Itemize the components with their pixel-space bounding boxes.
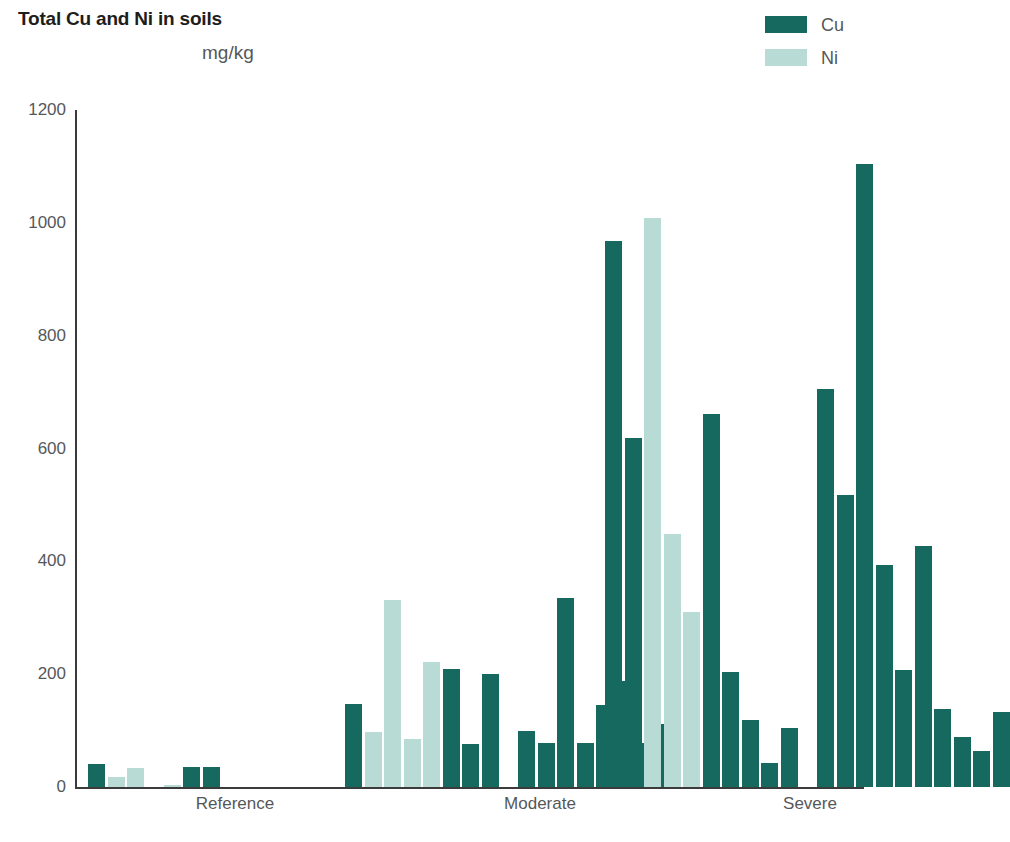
- bar-severe-cu: [973, 751, 990, 787]
- bar-severe-cu: [934, 709, 951, 787]
- bar-reference-ni: [108, 777, 125, 787]
- bar-severe-cu: [742, 720, 759, 787]
- bar-severe-cu: [817, 389, 834, 787]
- y-tick-label: 400: [38, 551, 66, 571]
- bar-severe-cu: [876, 565, 893, 787]
- bar-moderate-ni: [423, 662, 440, 787]
- y-tick-label: 600: [38, 439, 66, 459]
- bar-reference-cu: [183, 767, 200, 787]
- legend-label-ni: Ni: [821, 49, 838, 67]
- x-axis-line: [75, 787, 864, 789]
- bar-severe-cu: [761, 763, 778, 787]
- chart-subtitle: mg/kg: [202, 42, 254, 64]
- bar-reference-cu: [203, 767, 220, 787]
- y-tick-label: 1000: [28, 213, 66, 233]
- bar-severe-cu: [605, 241, 622, 787]
- y-tick-label: 800: [38, 326, 66, 346]
- bar-severe-cu: [722, 672, 739, 787]
- bar-moderate-cu: [462, 744, 479, 787]
- bar-moderate-ni: [404, 739, 421, 787]
- y-tick-label: 200: [38, 664, 66, 684]
- bar-moderate-cu: [518, 731, 535, 787]
- legend-item-ni[interactable]: Ni: [765, 41, 875, 74]
- bar-reference-cu: [88, 764, 105, 787]
- chart-title: Total Cu and Ni in soils: [18, 8, 222, 30]
- bar-severe-cu: [837, 495, 854, 787]
- legend-label-cu: Cu: [821, 16, 844, 34]
- legend-swatch-cu: [765, 16, 807, 33]
- bar-severe-ni: [664, 534, 681, 787]
- bar-moderate-cu: [482, 674, 499, 787]
- bar-reference-ni: [164, 785, 181, 787]
- bar-moderate-cu: [557, 598, 574, 787]
- y-tick-label: 0: [57, 777, 66, 797]
- bar-severe-cu: [856, 164, 873, 787]
- chart-legend: Cu Ni: [765, 8, 875, 74]
- y-tick-label: 1200: [28, 100, 66, 120]
- bar-severe-cu: [954, 737, 971, 787]
- legend-item-cu[interactable]: Cu: [765, 8, 875, 41]
- bar-severe-cu: [915, 546, 932, 787]
- bar-severe-ni: [644, 218, 661, 787]
- bar-reference-ni: [127, 768, 144, 787]
- legend-swatch-ni: [765, 49, 807, 66]
- bar-moderate-ni: [365, 732, 382, 787]
- bar-series-container: [75, 110, 881, 787]
- bar-moderate-cu: [577, 743, 594, 787]
- x-group-label-severe: Severe: [783, 794, 837, 814]
- x-group-label-reference: Reference: [196, 794, 274, 814]
- x-group-label-moderate: Moderate: [504, 794, 576, 814]
- bar-severe-ni: [683, 612, 700, 787]
- bar-moderate-ni: [384, 600, 401, 787]
- bar-severe-cu: [781, 728, 798, 787]
- bar-moderate-cu: [443, 669, 460, 787]
- bar-moderate-cu: [538, 743, 555, 787]
- plot-area: 020040060080010001200: [75, 110, 881, 787]
- bar-severe-cu: [993, 712, 1010, 787]
- bar-severe-cu: [895, 670, 912, 787]
- bar-severe-cu: [703, 414, 720, 787]
- bar-severe-cu: [625, 438, 642, 787]
- bar-moderate-cu: [345, 704, 362, 787]
